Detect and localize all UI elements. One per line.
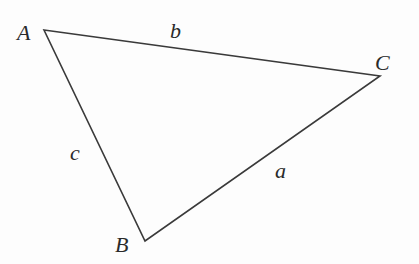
triangle-abc bbox=[44, 30, 380, 241]
vertex-label-b: B bbox=[115, 232, 128, 257]
side-label-a: a bbox=[275, 158, 286, 183]
side-label-c: c bbox=[70, 140, 80, 165]
vertex-label-c: C bbox=[375, 50, 390, 75]
triangle-diagram: A B C b a c bbox=[0, 0, 419, 264]
vertex-label-a: A bbox=[15, 20, 31, 45]
side-label-b: b bbox=[170, 18, 181, 43]
